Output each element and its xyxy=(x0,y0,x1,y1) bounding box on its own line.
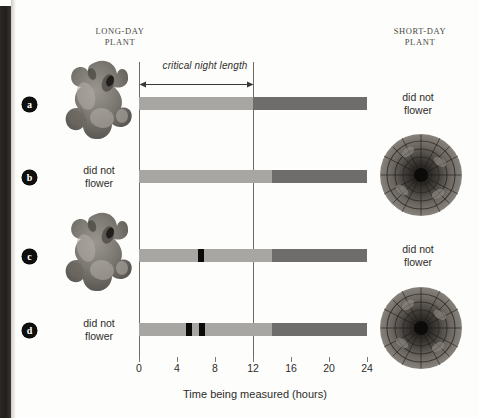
x-tick-label-20: 20 xyxy=(316,362,342,374)
bar-flash-segment-d-1 xyxy=(186,323,192,336)
row-marker-c: c xyxy=(22,249,37,264)
bar-night-segment-d xyxy=(272,323,367,336)
long-day-plant-header: LONG-DAY PLANT xyxy=(62,26,178,48)
iris-flower-photo-c xyxy=(62,208,136,296)
x-tick-label-12: 12 xyxy=(240,362,266,374)
photoperiodism-figure: LONG-DAY PLANT SHORT-DAY PLANT critical … xyxy=(0,0,479,418)
did-not-flower-label-left-b: did not flower xyxy=(62,164,136,189)
x-tick-label-4: 4 xyxy=(164,362,190,374)
short-day-plant-header: SHORT-DAY PLANT xyxy=(362,26,478,48)
bar-row-d xyxy=(139,323,367,336)
page-binding-edge xyxy=(0,6,11,418)
did-not-flower-label-right-c: did not flower xyxy=(381,243,455,268)
row-marker-a: a xyxy=(22,97,37,112)
bar-row-c xyxy=(139,249,367,262)
bar-flash-segment-c-1 xyxy=(198,249,204,262)
iris-flower-photo-a xyxy=(62,56,136,144)
x-tick-label-24: 24 xyxy=(354,362,380,374)
bar-night-segment-a xyxy=(253,97,367,110)
page-binding-shadow xyxy=(11,0,16,418)
x-axis-title: Time being measured (hours) xyxy=(110,388,400,400)
bar-night-segment-b xyxy=(272,170,367,183)
x-tick-label-0: 0 xyxy=(126,362,152,374)
bar-row-b xyxy=(139,170,367,183)
x-tick-label-16: 16 xyxy=(278,362,304,374)
x-axis: 0 4 8 12 16 20 24 xyxy=(139,357,371,359)
bar-row-a xyxy=(139,97,367,110)
bar-flash-segment-d-2 xyxy=(199,323,205,336)
chrysanthemum-flower-photo-b xyxy=(378,132,464,218)
chrysanthemum-flower-photo-d xyxy=(378,285,464,371)
did-not-flower-label-left-d: did not flower xyxy=(62,317,136,342)
x-tick-label-8: 8 xyxy=(202,362,228,374)
row-marker-d: d xyxy=(22,323,37,338)
row-marker-b: b xyxy=(22,170,37,185)
did-not-flower-label-right-a: did not flower xyxy=(381,91,455,116)
bar-night-segment-c xyxy=(272,249,367,262)
